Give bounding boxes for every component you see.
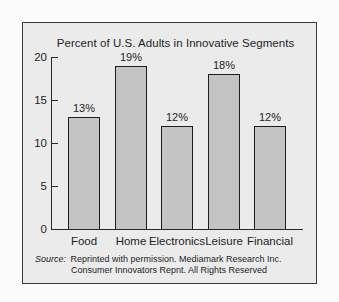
bar-leisure bbox=[208, 74, 240, 229]
source-line-1: Reprinted with permission. Mediamark Res… bbox=[71, 254, 282, 264]
bar-value-label: 13% bbox=[59, 102, 109, 114]
y-tick-label: 20 bbox=[23, 51, 47, 63]
y-tick-label: 10 bbox=[23, 137, 47, 149]
bar-value-label: 12% bbox=[245, 111, 295, 123]
bar-food bbox=[68, 117, 100, 229]
chart-title: Percent of U.S. Adults in Innovative Seg… bbox=[23, 37, 328, 49]
y-tick-label: 15 bbox=[23, 94, 47, 106]
source-line-2: Consumer Innovators Repnt. All Rights Re… bbox=[35, 265, 282, 276]
bar-value-label: 18% bbox=[199, 59, 249, 71]
source-note: Source: Reprinted with permission. Media… bbox=[35, 254, 282, 276]
y-tick bbox=[52, 186, 58, 187]
y-tick-label: 0 bbox=[23, 223, 47, 235]
y-tick bbox=[52, 143, 58, 144]
bar-value-label: 19% bbox=[106, 51, 156, 63]
bar-home bbox=[115, 66, 147, 229]
y-tick-label: 5 bbox=[23, 180, 47, 192]
y-tick bbox=[52, 100, 58, 101]
bar-electronics bbox=[161, 126, 193, 229]
x-axis-line bbox=[51, 229, 303, 230]
category-label: Financial bbox=[235, 235, 305, 248]
chart-panel: Percent of U.S. Adults in Innovative Seg… bbox=[22, 22, 317, 284]
y-tick bbox=[52, 57, 58, 58]
source-label: Source: bbox=[35, 254, 68, 265]
bar-value-label: 12% bbox=[152, 111, 202, 123]
bar-financial bbox=[254, 126, 286, 229]
y-tick bbox=[52, 229, 58, 230]
